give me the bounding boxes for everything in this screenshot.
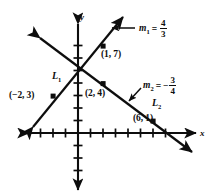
- line-label-L2: L2: [152, 98, 161, 111]
- m2-pointer-arrow: [129, 88, 141, 101]
- line-label-L1: L1: [52, 71, 61, 84]
- slope-denominator-m2: 4: [169, 85, 176, 96]
- graph-figure: y x (1, 7) (−2, 3) (2, 4) (6, 1) L1 L2 m…: [0, 0, 220, 196]
- slope-fraction-m1: 4 3: [160, 19, 167, 39]
- slope-symbol-m2: m2: [143, 80, 154, 92]
- slope-equals-m2: =: [156, 81, 161, 91]
- slope-numerator-m2: 3: [169, 76, 176, 86]
- point-label-1-7: (1, 7): [101, 50, 121, 60]
- x-axis-label: x: [200, 129, 205, 138]
- slope-symbol-m1: m1: [139, 23, 150, 35]
- point-marker-1-7: [101, 44, 106, 49]
- line-label-L2-sub: 2: [158, 103, 161, 110]
- slope-sign-m2: −: [163, 81, 168, 91]
- y-axis: [74, 24, 83, 190]
- point-label-neg2-3: (−2, 3): [9, 91, 34, 101]
- y-axis-label: y: [80, 13, 84, 22]
- slope-equals-m1: =: [152, 24, 157, 34]
- slope-annotation-m2: m2 = − 3 4: [143, 76, 176, 96]
- line-label-L1-sub: 1: [58, 76, 61, 83]
- slope-fraction-m2: 3 4: [169, 76, 176, 96]
- slope-numerator-m1: 4: [160, 19, 167, 29]
- point-label-6-1: (6, 1): [133, 114, 153, 124]
- point-marker-2-4: [101, 81, 106, 86]
- slope-annotation-m1: m1 = 4 3: [139, 19, 167, 39]
- point-marker-neg2-3: [51, 94, 56, 99]
- point-label-2-4: (2, 4): [85, 89, 105, 99]
- slope-denominator-m1: 3: [160, 28, 167, 39]
